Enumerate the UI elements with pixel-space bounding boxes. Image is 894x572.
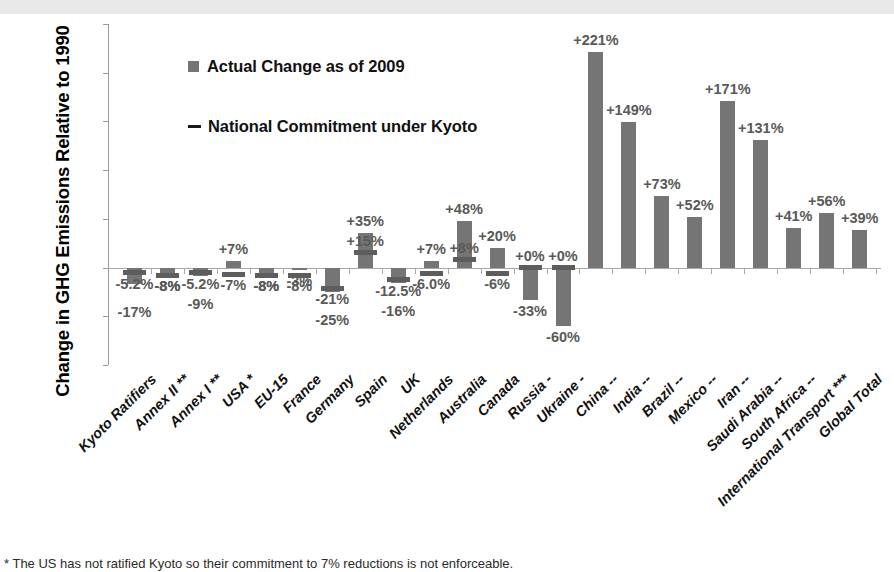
bar-value-label: -60% [533, 329, 593, 345]
x-axis-category-label: USA * [219, 371, 258, 410]
legend-item-commitment: National Commitment under Kyoto [188, 117, 477, 136]
bar-value-label: -9% [170, 296, 230, 312]
commitment-marker [420, 271, 443, 276]
bar-value-label: +48% [434, 201, 494, 217]
bar-value-label: +35% [335, 213, 395, 229]
bar-value-label: +221% [566, 32, 626, 48]
bar-value-label: +39% [830, 210, 890, 226]
bar-value-label: -16% [368, 303, 428, 319]
bar-value-label: +52% [665, 197, 725, 213]
footnote-text: * The US has not ratified Kyoto so their… [4, 556, 513, 571]
bar-actual [687, 217, 702, 268]
y-tick-mark [103, 365, 108, 366]
bar-value-label: +131% [731, 120, 791, 136]
commitment-marker [189, 270, 212, 275]
zero-baseline [108, 268, 881, 269]
x-axis-category-label: UK [397, 371, 423, 397]
commitment-value-label: -6.0% [401, 276, 461, 292]
x-tick-mark [217, 268, 218, 274]
bar-value-label: -25% [302, 312, 362, 328]
commitment-marker [123, 270, 146, 275]
bar-actual [588, 52, 603, 267]
commitment-marker [552, 265, 575, 270]
bar-value-label: +7% [203, 241, 263, 257]
bar-actual [523, 268, 538, 300]
x-tick-mark [448, 268, 449, 274]
x-tick-mark [612, 268, 613, 274]
bar-actual [424, 261, 439, 268]
bar-value-label: -33% [500, 303, 560, 319]
bar-actual [556, 268, 571, 326]
bar-value-label: +56% [797, 193, 857, 209]
bar-value-label: -17% [104, 304, 164, 320]
y-tick-mark [103, 24, 108, 25]
x-tick-mark [744, 268, 745, 274]
y-tick-mark [103, 219, 108, 220]
x-tick-mark [547, 268, 548, 274]
x-tick-mark [810, 268, 811, 274]
commitment-marker [453, 257, 476, 262]
legend-item-actual: Actual Change as of 2009 [188, 57, 477, 76]
x-tick-mark [777, 268, 778, 274]
chart-page: Change in GHG Emissions Relative to 1990… [0, 0, 894, 572]
y-tick-mark [103, 73, 108, 74]
x-tick-mark [481, 268, 482, 274]
bar-actual [621, 122, 636, 267]
bar-actual [226, 261, 241, 268]
bar-value-label: +73% [632, 176, 692, 192]
x-axis-category-label: Spain [351, 371, 390, 410]
commitment-value-label: +15% [335, 233, 395, 249]
commitment-marker [486, 271, 509, 276]
legend-label-commitment: National Commitment under Kyoto [208, 117, 477, 136]
commitment-value-label: -6% [467, 276, 527, 292]
commitment-marker [288, 273, 311, 278]
x-tick-mark [711, 268, 712, 274]
y-tick-mark [103, 170, 108, 171]
bar-actual [786, 228, 801, 268]
legend-label-actual: Actual Change as of 2009 [207, 57, 405, 76]
bar-value-label: +20% [467, 228, 527, 244]
x-tick-mark [876, 268, 877, 274]
bar-actual [753, 140, 768, 268]
legend-square-icon [188, 61, 199, 72]
x-tick-mark [579, 268, 580, 274]
commitment-value-label: +0% [533, 248, 593, 264]
commitment-marker [222, 272, 245, 277]
x-tick-mark [349, 268, 350, 274]
x-tick-mark [151, 268, 152, 274]
bar-actual [292, 268, 307, 271]
x-tick-mark [184, 268, 185, 274]
x-tick-mark [250, 268, 251, 274]
bar-actual [852, 230, 867, 268]
legend-dash-icon [188, 125, 201, 128]
bar-value-label: +171% [698, 81, 758, 97]
x-tick-mark [382, 268, 383, 274]
y-axis-title: Change in GHG Emissions Relative to 1990 [52, 11, 74, 411]
y-tick-mark [103, 268, 108, 269]
x-tick-mark [645, 268, 646, 274]
commitment-marker [321, 286, 344, 291]
y-tick-mark [103, 121, 108, 122]
x-tick-mark [415, 268, 416, 274]
commitment-marker [519, 265, 542, 270]
commitment-marker [354, 250, 377, 255]
x-tick-mark [843, 268, 844, 274]
x-tick-mark [678, 268, 679, 274]
bar-value-label: +41% [764, 208, 824, 224]
bar-value-label: +149% [599, 102, 659, 118]
commitment-value-label: -21% [302, 291, 362, 307]
x-tick-mark [514, 268, 515, 274]
chart-legend: Actual Change as of 2009 National Commit… [188, 57, 477, 177]
